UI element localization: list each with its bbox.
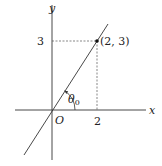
angle-label-subscript: 0 [75, 98, 80, 107]
x-tick-label: 2 [94, 115, 101, 128]
coordinate-diagram: y x O 3 2 (2, 3) θ0 [0, 0, 162, 166]
y-tick-label: 3 [37, 35, 44, 48]
angle-label: θ0 [68, 93, 80, 107]
point-marker [95, 39, 99, 43]
y-axis-label: y [48, 2, 56, 15]
point-label: (2, 3) [100, 35, 130, 48]
x-axis-label: x [149, 104, 156, 117]
origin-label: O [55, 114, 64, 127]
